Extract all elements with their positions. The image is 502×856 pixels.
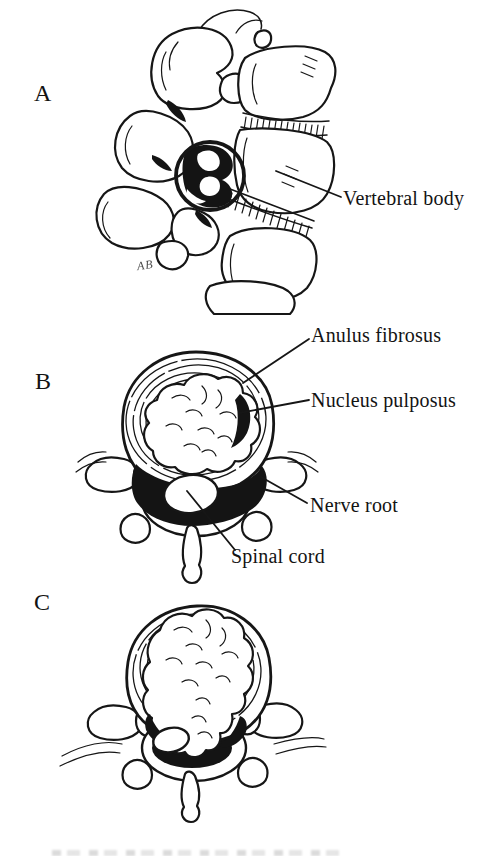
panel-c-drawing [60, 606, 326, 822]
cropped-caption-remnant [52, 850, 348, 856]
nucleus-pulposus-label: Nucleus pulposus [311, 389, 456, 412]
panel-a-drawing [96, 10, 335, 314]
spinal-cord-label: Spinal cord [231, 545, 325, 568]
nerve-root-label: Nerve root [310, 494, 398, 517]
spine-anatomy-figure: A B C Vertebral body Anulus fibrosus Nuc… [0, 0, 502, 856]
line-art [0, 0, 502, 856]
vertebral-body-label: Vertebral body [343, 187, 464, 210]
artist-initials: AB [136, 257, 155, 274]
anulus-fibrosus-leader-line [243, 339, 309, 383]
panel-c-letter: C [34, 589, 50, 616]
anulus-fibrosus-label: Anulus fibrosus [311, 324, 441, 347]
panel-b-letter: B [35, 368, 51, 395]
panel-a-letter: A [34, 80, 51, 107]
